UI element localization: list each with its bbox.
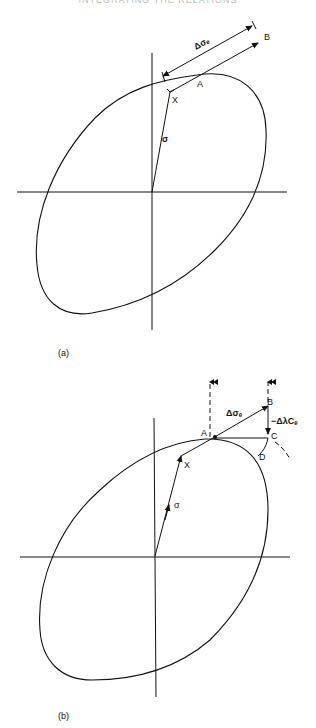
sigma-mid-arrow [165, 505, 169, 520]
yield-surface [36, 74, 266, 314]
label-point-a: A [197, 79, 203, 89]
x-to-a-vector [181, 438, 213, 456]
caption-a: (a) [58, 348, 69, 358]
label-sigma: σ [162, 134, 168, 144]
label-point-x: X [184, 460, 190, 470]
yield-surface [40, 439, 268, 680]
label-point-b: B [267, 397, 273, 407]
figure-a: Δσₑ B A X σ [17, 21, 287, 330]
elastic-increment-arrow [170, 43, 258, 92]
label-correction: −ΔλCₑ [271, 416, 298, 426]
new-surface-dashed [275, 442, 290, 459]
dimension-tick-left [162, 72, 165, 82]
caption-b: (b) [58, 711, 69, 721]
label-point-d: D [259, 452, 266, 462]
label-point-x: X [172, 95, 178, 105]
dimension-arrow [163, 26, 252, 76]
diagram-canvas: Δσₑ B A X σ (a) Δσₑ B −ΔλCₑ A C D X σ (b… [0, 0, 316, 728]
label-delta-sigma-e: Δσₑ [192, 35, 211, 52]
dimension-tick-right [252, 21, 256, 29]
label-delta-sigma-e: Δσₑ [226, 408, 243, 418]
point-a-marker [213, 435, 217, 439]
figure-b: Δσₑ B −ΔλCₑ A C D X σ [20, 382, 298, 697]
label-point-c: C [271, 431, 278, 441]
label-sigma: σ [174, 500, 180, 510]
label-point-b: B [264, 32, 270, 42]
label-point-a: A [201, 428, 207, 438]
